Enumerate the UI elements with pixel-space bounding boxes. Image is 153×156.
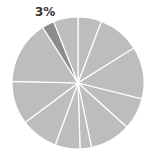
pie-chart [0,0,153,156]
highlight-slice-label: 3% [35,5,55,19]
